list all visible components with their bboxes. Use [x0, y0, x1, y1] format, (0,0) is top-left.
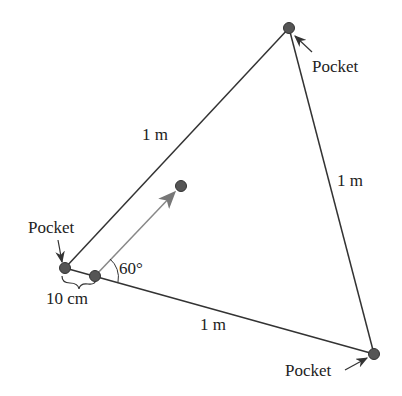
- side-right: [289, 28, 374, 354]
- pocket-left-label: Pocket: [28, 218, 75, 237]
- pocket-bottom: [369, 349, 380, 360]
- angle-arc: [110, 259, 118, 282]
- distance-label: 10 cm: [46, 289, 88, 308]
- pool-table-diagram: Pocket Pocket Pocket 1 m 1 m 1 m 10 cm 6…: [0, 0, 402, 396]
- ball-end: [176, 181, 187, 192]
- pointer-arrow-left: [58, 240, 62, 262]
- side-left: [65, 28, 289, 268]
- pocket-left: [60, 263, 71, 274]
- side-bottom: [65, 268, 374, 354]
- side-bottom-label: 1 m: [200, 315, 226, 334]
- pointer-arrow-top: [295, 36, 312, 52]
- pocket-top: [284, 23, 295, 34]
- angle-label: 60°: [119, 259, 143, 278]
- side-left-label: 1 m: [142, 125, 168, 144]
- pointer-arrow-bottom: [345, 358, 367, 370]
- pocket-top-label: Pocket: [312, 57, 359, 76]
- ball-start: [90, 271, 101, 282]
- pocket-bottom-label: Pocket: [285, 361, 332, 380]
- side-right-label: 1 m: [337, 171, 363, 190]
